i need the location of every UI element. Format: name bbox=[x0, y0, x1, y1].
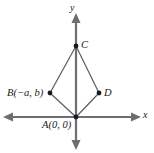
x-axis-label: x bbox=[143, 110, 147, 120]
edge-d-a bbox=[76, 93, 99, 117]
vertex-point-c bbox=[74, 44, 79, 49]
point-label-d: D bbox=[104, 88, 112, 99]
y-axis-arrow-down-icon bbox=[72, 140, 81, 150]
kite-polygon bbox=[50, 46, 99, 117]
point-label-b: B(−a, b) bbox=[7, 88, 43, 99]
edge-b-c bbox=[50, 46, 76, 93]
point-label-a: A(0, 0) bbox=[42, 120, 71, 131]
edge-c-d bbox=[76, 46, 99, 93]
y-axis-arrow-up-icon bbox=[72, 13, 81, 23]
coordinate-plane-figure: B(−a, b) C D A(0, 0) y x bbox=[0, 0, 154, 153]
x-axis-arrow-left-icon bbox=[3, 113, 13, 122]
x-axis-arrow-right-icon bbox=[131, 113, 141, 122]
diagram-canvas bbox=[0, 0, 154, 153]
y-axis bbox=[72, 13, 81, 150]
y-axis-label: y bbox=[70, 3, 74, 13]
point-label-c: C bbox=[81, 40, 88, 51]
vertex-point-d bbox=[97, 91, 102, 96]
vertex-point-a bbox=[74, 115, 79, 120]
edge-a-b bbox=[50, 93, 76, 117]
vertex-point-b bbox=[48, 91, 53, 96]
